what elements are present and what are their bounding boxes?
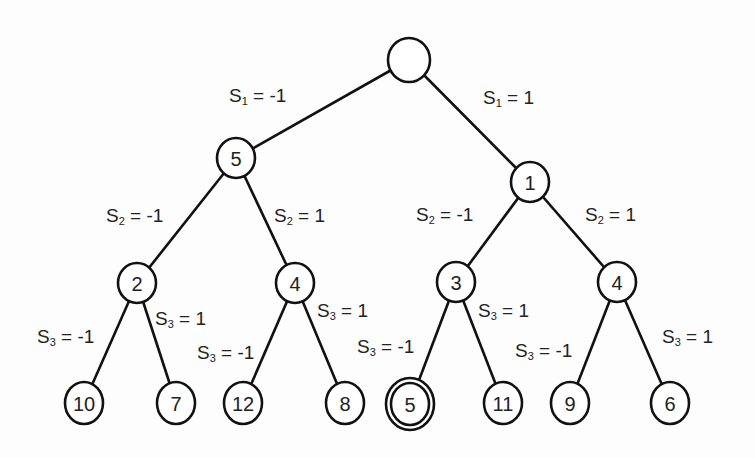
decision-tree-diagram: S1 = -1S1 = 1S2 = -1S2 = 1S2 = -1S2 = 1S…	[0, 0, 755, 458]
internal-node: 3	[437, 262, 475, 302]
edge-label: S2 = 1	[274, 205, 325, 227]
node-value: 9	[564, 393, 575, 415]
edge-label: S3 = 1	[478, 300, 529, 322]
leaf-node: 6	[651, 382, 689, 424]
node-value: 4	[611, 272, 622, 294]
internal-node: 4	[276, 263, 314, 303]
node-value: 12	[232, 393, 254, 415]
edge-label: S3 = -1	[515, 340, 572, 362]
root-node	[388, 38, 430, 82]
edge-label: S2 = 1	[585, 204, 636, 226]
edge-label: S3 = 1	[155, 308, 206, 330]
node-value: 6	[664, 393, 675, 415]
edge-label: S2 = -1	[106, 205, 163, 227]
internal-node: 4	[598, 262, 636, 302]
leaf-node: 9	[551, 382, 589, 424]
node-value: 8	[339, 393, 350, 415]
leaf-node: 11	[484, 382, 522, 424]
edge-label: S2 = -1	[416, 204, 473, 226]
internal-node: 5	[217, 138, 255, 178]
leaf-node: 5	[386, 378, 434, 430]
edge-label: S3 = -1	[37, 326, 94, 348]
tree-nodes: 51243410712851196	[65, 38, 689, 430]
node-value: 5	[404, 394, 415, 416]
leaf-node: 12	[224, 382, 262, 424]
edge-label: S1 = 1	[483, 87, 534, 109]
node-value: 5	[230, 148, 241, 170]
node-value: 10	[73, 393, 95, 415]
edge-root-n1	[409, 60, 530, 182]
edge-label: S1 = -1	[229, 85, 286, 107]
node-circle	[388, 38, 430, 82]
leaf-node: 7	[157, 382, 195, 424]
edge-label: S3 = 1	[662, 326, 713, 348]
internal-node: 2	[118, 263, 156, 303]
node-value: 7	[170, 393, 181, 415]
node-value: 4	[289, 273, 300, 295]
node-value: 3	[450, 272, 461, 294]
edge-label: S3 = -1	[357, 336, 414, 358]
node-value: 11	[493, 393, 514, 415]
edge-label: S3 = 1	[317, 300, 368, 322]
edge-label: S3 = -1	[197, 342, 254, 364]
leaf-node: 10	[65, 382, 103, 424]
leaf-node: 8	[326, 382, 364, 424]
edge-labels: S1 = -1S1 = 1S2 = -1S2 = 1S2 = -1S2 = 1S…	[37, 85, 713, 364]
node-value: 1	[524, 172, 535, 194]
node-value: 2	[131, 273, 142, 295]
edge-root-n5	[236, 60, 409, 158]
internal-node: 1	[511, 162, 549, 202]
